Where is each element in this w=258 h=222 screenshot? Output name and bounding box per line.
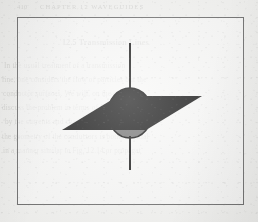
intersecting-plane [62, 96, 202, 130]
diagram-canvas [0, 0, 258, 222]
sphere-plane-diagram [0, 0, 258, 222]
scanned-page: CHAPTER 12 WAVEGUIDES 410 12.5 Transmiss… [0, 0, 258, 222]
